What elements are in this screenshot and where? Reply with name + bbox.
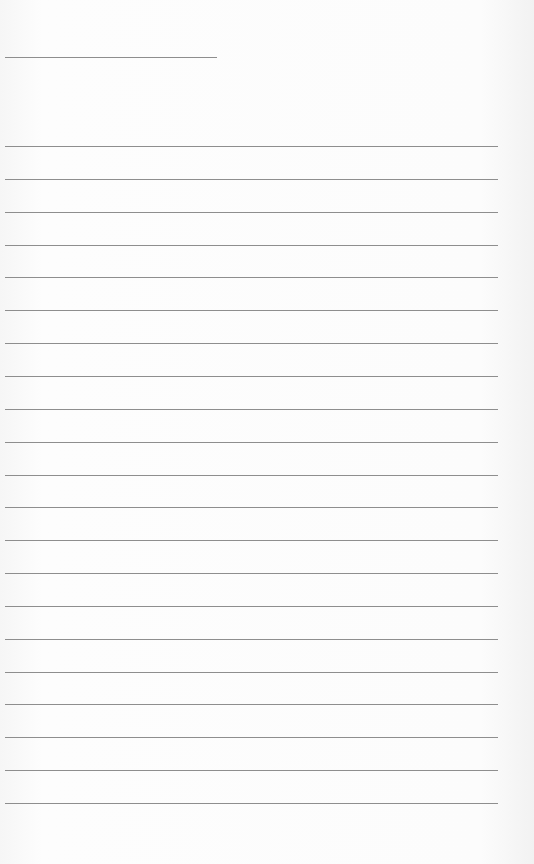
ruled-line (5, 540, 498, 541)
ruled-line (5, 704, 498, 705)
ruled-line (5, 803, 498, 804)
ruled-line (5, 442, 498, 443)
ruled-line (5, 409, 498, 410)
ruled-line (5, 343, 498, 344)
ruled-line (5, 179, 498, 180)
ruled-line (5, 606, 498, 607)
ruled-line (5, 573, 498, 574)
ruled-line (5, 672, 498, 673)
ruled-line (5, 310, 498, 311)
ruled-line (5, 277, 498, 278)
header-rule (5, 57, 217, 58)
ruled-line (5, 212, 498, 213)
lined-paper-page (0, 0, 534, 864)
ruled-line (5, 639, 498, 640)
ruled-line (5, 475, 498, 476)
ruled-line (5, 737, 498, 738)
ruled-line (5, 146, 498, 147)
ruled-line (5, 507, 498, 508)
ruled-line (5, 376, 498, 377)
ruled-line (5, 245, 498, 246)
ruled-line (5, 770, 498, 771)
